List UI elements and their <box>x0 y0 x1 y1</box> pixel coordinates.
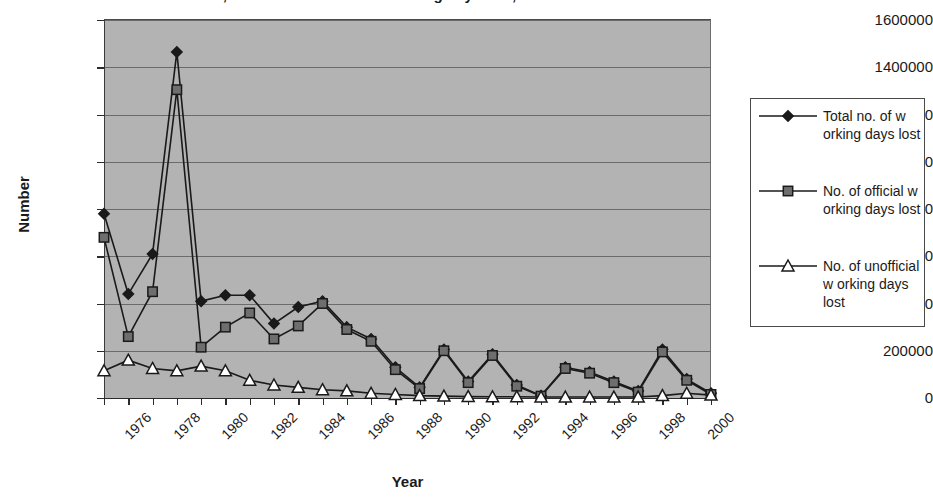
x-axis-tick-label: 1998 <box>655 409 688 442</box>
x-axis-title: Year <box>104 473 711 490</box>
square-marker <box>783 186 792 195</box>
x-axis-tick-mark <box>104 398 105 405</box>
x-axis-tick-mark <box>201 398 202 405</box>
chart-title: Total, official and unofficial working d… <box>60 0 720 5</box>
series-line <box>104 52 711 396</box>
triangle-marker <box>681 387 693 398</box>
square-marker <box>196 343 205 352</box>
triangle-legend-swatch <box>757 258 819 274</box>
square-marker <box>99 233 108 242</box>
chart-root: Total, official and unofficial working d… <box>0 0 933 501</box>
x-axis-tick-mark <box>225 398 226 405</box>
y-axis-tick-mark <box>97 351 104 352</box>
square-marker <box>366 337 375 346</box>
y-axis-tick-label: 1400000 <box>841 59 933 74</box>
x-axis-tick-label: 1980 <box>218 409 251 442</box>
square-marker <box>488 351 497 360</box>
square-marker <box>658 347 667 356</box>
square-marker <box>148 287 157 296</box>
square-marker <box>269 334 278 343</box>
square-marker <box>609 378 618 387</box>
triangle-marker <box>122 354 134 365</box>
square-marker <box>318 299 327 308</box>
square-marker <box>294 321 303 330</box>
diamond-marker <box>783 111 793 121</box>
legend-label: Total no. of w orking days lost <box>823 107 925 143</box>
x-axis-tick-mark <box>298 398 299 405</box>
x-axis-tick-label: 2000 <box>704 409 737 442</box>
legend: Total no. of w orking days lostNo. of of… <box>750 98 925 327</box>
diamond-marker <box>123 289 133 299</box>
y-axis-tick-label: 0 <box>841 390 933 405</box>
x-axis-tick-mark <box>687 398 688 405</box>
triangle-marker <box>244 374 256 385</box>
x-axis-tick-mark <box>153 398 154 405</box>
square-marker <box>342 325 351 334</box>
y-axis-tick-mark <box>97 304 104 305</box>
x-axis-tick-label: 1990 <box>461 409 494 442</box>
diamond-marker <box>220 290 230 300</box>
diamond-marker <box>172 47 182 57</box>
square-marker <box>682 376 691 385</box>
x-axis-tick-label: 1986 <box>364 409 397 442</box>
x-axis-tick-mark <box>323 398 324 405</box>
series-square <box>99 85 715 401</box>
x-axis-tick-mark <box>250 398 251 405</box>
x-axis-tick-mark <box>274 398 275 405</box>
y-axis-title: Number <box>15 160 32 250</box>
square-legend-swatch <box>757 183 819 199</box>
square-marker <box>172 85 181 94</box>
x-axis-tick-label: 1992 <box>510 409 543 442</box>
x-axis-tick-label: 1976 <box>121 409 154 442</box>
x-axis-tick-label: 1988 <box>412 409 445 442</box>
triangle-marker <box>147 362 159 373</box>
diamond-legend-swatch <box>757 108 819 124</box>
x-axis-tick-label: 1996 <box>607 409 640 442</box>
y-axis-tick-label: 1600000 <box>841 12 933 27</box>
x-axis-tick-mark <box>128 398 129 405</box>
legend-label: No. of official w orking days lost <box>823 182 925 218</box>
square-marker <box>439 346 448 355</box>
y-axis-tick-mark <box>97 398 104 399</box>
square-marker <box>585 368 594 377</box>
triangle-marker <box>98 365 110 376</box>
x-axis-tick-mark <box>347 398 348 405</box>
square-marker <box>561 364 570 373</box>
y-axis-tick-mark <box>97 20 104 21</box>
diamond-marker <box>293 302 303 312</box>
square-marker <box>464 378 473 387</box>
square-marker <box>391 365 400 374</box>
x-axis-tick-mark <box>177 398 178 405</box>
y-axis-tick-mark <box>97 67 104 68</box>
y-axis-tick-label: 200000 <box>841 343 933 358</box>
legend-label: No. of unofficial w orking days lost <box>823 257 925 311</box>
series-diamond <box>99 47 716 401</box>
x-axis-tick-label: 1984 <box>315 409 348 442</box>
x-axis-tick-label: 1978 <box>170 409 203 442</box>
x-axis-tick-mark <box>371 398 372 405</box>
y-axis-tick-mark <box>97 162 104 163</box>
x-axis-tick-label: 1994 <box>558 409 591 442</box>
square-marker <box>221 322 230 331</box>
x-axis-tick-label: 1982 <box>267 409 300 442</box>
triangle-marker <box>195 360 207 371</box>
data-series-layer <box>104 20 711 398</box>
square-marker <box>124 332 133 341</box>
y-axis-tick-mark <box>97 256 104 257</box>
square-marker <box>245 308 254 317</box>
y-axis-tick-mark <box>97 115 104 116</box>
